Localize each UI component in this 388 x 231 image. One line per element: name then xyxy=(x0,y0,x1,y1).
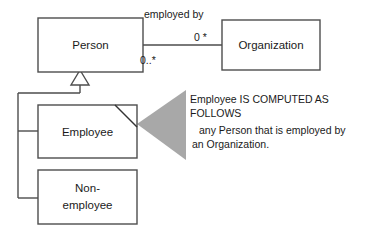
note-pointer-icon xyxy=(137,90,186,160)
note-text-line-4: an Organization. xyxy=(192,138,269,150)
class-name-nonemployee-line2: employee xyxy=(63,199,113,211)
note-text-line-1: Employee IS COMPUTED AS xyxy=(190,93,329,105)
multiplicity-target-label: 0 * xyxy=(194,31,207,43)
multiplicity-source-label: 0..* xyxy=(140,54,156,66)
class-name-nonemployee-line1: Non- xyxy=(75,182,100,194)
association-name-label: employed by xyxy=(144,8,204,20)
class-name-employee: Employee xyxy=(62,126,113,138)
diagram-canvas: Person Organization Employee Non- employ… xyxy=(0,0,388,231)
class-name-organization: Organization xyxy=(238,39,303,51)
uml-class-diagram: Person Organization Employee Non- employ… xyxy=(0,0,388,231)
class-box-nonemployee[interactable] xyxy=(38,170,137,224)
note-text-line-2: FOLLOWS xyxy=(190,107,241,119)
note-text-line-3: any Person that is employed by xyxy=(199,124,346,136)
class-name-person: Person xyxy=(72,39,108,51)
